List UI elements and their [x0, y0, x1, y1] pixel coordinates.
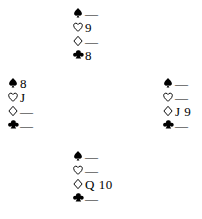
suit-row-diamonds: —: [7, 104, 33, 118]
hand-west: 8 J — —: [7, 76, 33, 132]
hearts-holding: —: [174, 91, 188, 104]
hearts-holding: J: [19, 91, 26, 104]
heart-icon: [72, 21, 84, 33]
diamond-icon: [72, 178, 84, 190]
suit-row-diamonds: Q 10: [72, 177, 113, 191]
suit-row-clubs: 8: [72, 48, 98, 62]
hand-east: — — J 9 —: [162, 76, 191, 132]
hearts-holding: —: [84, 164, 98, 177]
suit-row-spades: —: [72, 6, 98, 20]
spade-icon: [7, 77, 19, 89]
suit-row-diamonds: —: [72, 34, 98, 48]
suit-row-hearts: J: [7, 90, 33, 104]
hearts-holding: 9: [84, 21, 92, 34]
spade-icon: [72, 7, 84, 19]
suit-row-clubs: —: [162, 118, 191, 132]
suit-row-spades: —: [162, 76, 191, 90]
diamonds-holding: —: [19, 105, 33, 118]
suit-row-clubs: —: [72, 191, 113, 205]
spades-holding: —: [84, 7, 98, 20]
heart-icon: [7, 91, 19, 103]
hand-south: — — Q 10 —: [72, 149, 113, 205]
suit-row-spades: 8: [7, 76, 33, 90]
club-icon: [72, 192, 84, 204]
diamond-icon: [72, 35, 84, 47]
clubs-holding: 8: [84, 49, 92, 62]
spades-holding: —: [84, 150, 98, 163]
suit-row-hearts: —: [72, 163, 113, 177]
spades-holding: —: [174, 77, 188, 90]
diamonds-holding: Q 10: [84, 178, 113, 191]
clubs-holding: —: [19, 119, 33, 132]
clubs-holding: —: [84, 192, 98, 205]
diamond-icon: [7, 105, 19, 117]
suit-row-clubs: —: [7, 118, 33, 132]
spade-icon: [72, 150, 84, 162]
suit-row-hearts: 9: [72, 20, 98, 34]
bridge-hand-diagram: — 9 — 8: [0, 0, 202, 219]
club-icon: [162, 119, 174, 131]
spade-icon: [162, 77, 174, 89]
suit-row-spades: —: [72, 149, 113, 163]
diamonds-holding: —: [84, 35, 98, 48]
spades-holding: 8: [19, 77, 27, 90]
club-icon: [7, 119, 19, 131]
club-icon: [72, 49, 84, 61]
clubs-holding: —: [174, 119, 188, 132]
diamonds-holding: J 9: [174, 105, 191, 118]
suit-row-diamonds: J 9: [162, 104, 191, 118]
suit-row-hearts: —: [162, 90, 191, 104]
hand-north: — 9 — 8: [72, 6, 98, 62]
heart-icon: [72, 164, 84, 176]
heart-icon: [162, 91, 174, 103]
diamond-icon: [162, 105, 174, 117]
